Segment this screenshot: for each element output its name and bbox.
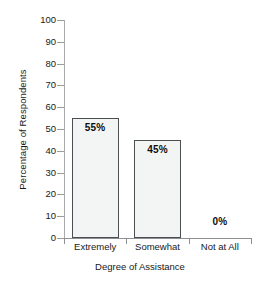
y-axis-tick-label: 70 — [30, 80, 56, 90]
y-axis-title: Percentage of Respondents — [17, 40, 28, 220]
bar-chart: Percentage of Respondents 10090807060504… — [0, 0, 256, 282]
y-axis-tick-label: 90 — [30, 37, 56, 47]
bar-value-label: 45% — [134, 144, 181, 155]
y-axis-tick-label: 10 — [30, 211, 56, 221]
x-axis-tick-label: Somewhat — [126, 241, 188, 253]
y-axis-tick-label: 0 — [30, 233, 56, 243]
y-axis-tick-label: 100 — [30, 15, 56, 25]
y-axis-tick-label: 30 — [30, 168, 56, 178]
y-axis-tick-label: 40 — [30, 146, 56, 156]
y-axis-tick-label: 80 — [30, 59, 56, 69]
y-axis-tick-mark — [57, 238, 64, 239]
y-axis-tick-label: 20 — [30, 189, 56, 199]
y-axis-tick-mark — [57, 151, 64, 152]
y-axis-tick-labels: 1009080706050403020100 — [28, 0, 56, 282]
y-axis-tick-mark — [57, 194, 64, 195]
y-axis-tick-label: 60 — [30, 102, 56, 112]
y-axis-tick-mark — [57, 173, 64, 174]
x-axis-tick-label: Extremely — [64, 241, 126, 253]
y-axis-tick-mark — [57, 64, 64, 65]
y-axis-tick-mark — [57, 85, 64, 86]
y-axis-tick-mark — [57, 129, 64, 130]
plot-area: 55%45%0% — [64, 20, 251, 238]
bar-value-label: 55% — [72, 122, 119, 133]
x-axis-tick-label: Not at All — [189, 241, 251, 253]
y-axis-tick-mark — [57, 216, 64, 217]
y-axis-tick-mark — [57, 20, 64, 21]
bar[interactable] — [72, 118, 119, 238]
x-axis-tick-labels: ExtremelySomewhatNot at All — [64, 241, 254, 255]
bar-value-label: 0% — [196, 216, 243, 227]
x-axis-line — [64, 238, 251, 239]
x-axis-title: Degree of Assistance — [40, 261, 240, 272]
y-axis-tick-label: 50 — [30, 124, 56, 134]
y-axis-tick-mark — [57, 42, 64, 43]
y-axis-tick-mark — [57, 107, 64, 108]
